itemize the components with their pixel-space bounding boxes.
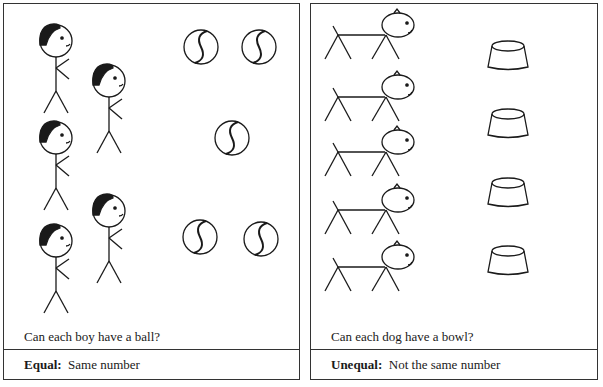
equal-question: Can each boy have a ball?	[24, 329, 160, 345]
ball-icon	[183, 220, 217, 254]
boy-icon	[40, 121, 72, 210]
boy-icon	[93, 194, 125, 283]
dogs-and-bowls-illustration	[311, 4, 597, 349]
ball-icon	[215, 121, 249, 155]
ball-icon	[242, 30, 276, 64]
bowl-icon	[488, 109, 528, 138]
dog-icon	[325, 241, 414, 291]
bowl-icon	[488, 41, 528, 70]
unequal-panel: Can each dog have a bowl? Unequal: Not t…	[310, 3, 598, 380]
dogs-bowls-svg	[311, 4, 599, 349]
unequal-label: Unequal:	[331, 357, 382, 372]
ball-icon	[184, 30, 218, 64]
boys-balls-svg	[4, 4, 301, 349]
boy-icon	[40, 24, 72, 113]
dog-icon	[325, 9, 414, 59]
boy-icon	[40, 224, 72, 313]
equal-panel: Can each boy have a ball? Equal: Same nu…	[3, 3, 300, 380]
equal-caption: Equal: Same number	[24, 357, 140, 373]
dog-icon	[325, 71, 414, 121]
unequal-caption: Unequal: Not the same number	[331, 357, 500, 373]
boy-icon	[93, 64, 125, 153]
equal-description: Same number	[68, 357, 140, 372]
dog-icon	[325, 184, 414, 234]
dog-icon	[325, 126, 414, 176]
unequal-question: Can each dog have a bowl?	[331, 329, 474, 345]
unequal-description: Not the same number	[389, 357, 501, 372]
panel-divider	[311, 349, 597, 350]
equal-label: Equal:	[24, 357, 62, 372]
panel-divider	[4, 349, 299, 350]
ball-icon	[244, 222, 278, 256]
bowl-icon	[488, 246, 528, 275]
bowl-icon	[488, 178, 528, 207]
boys-and-balls-illustration	[4, 4, 299, 349]
